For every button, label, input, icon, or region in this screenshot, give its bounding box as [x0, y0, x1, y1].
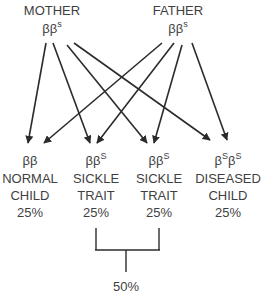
child-genotype: ββS [66, 152, 126, 169]
child-percent: 25% [0, 204, 60, 221]
child-genotype: βSβS [193, 152, 263, 169]
arrow-mother-to-trait1 [53, 43, 90, 143]
mother-label: MOTHER [22, 2, 82, 19]
child-line2: CHILD [0, 187, 60, 204]
child-percent: 25% [129, 204, 189, 221]
child-percent: 25% [66, 204, 126, 221]
arrow-father-to-trait2 [154, 45, 182, 143]
child-line2: TRAIT [66, 187, 126, 204]
child-line1: DISEASED [193, 170, 263, 187]
child-line1: NORMAL [0, 170, 60, 187]
child-line2: CHILD [193, 187, 263, 204]
child-line1: SICKLE [66, 170, 126, 187]
child-genotype: ββS [129, 152, 189, 169]
arrow-father-to-diseased [192, 43, 227, 140]
child-genotype: ββ [0, 152, 60, 169]
child-percent: 25% [193, 204, 263, 221]
combined-percent: 50% [106, 278, 146, 295]
arrow-mother-to-normal [28, 43, 46, 143]
mother-genotype: ββs [22, 20, 82, 37]
father-label: FATHER [148, 2, 208, 19]
father-genotype: ββs [148, 20, 208, 37]
child-line1: SICKLE [129, 170, 189, 187]
inheritance-arrows [0, 0, 264, 297]
bracket-50-percent [95, 228, 160, 272]
child-line2: TRAIT [129, 187, 189, 204]
arrow-mother-to-diseased [74, 43, 210, 140]
